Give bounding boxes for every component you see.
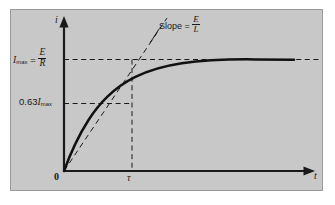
imax-label: Imax = ER bbox=[13, 50, 46, 70]
figure-root: i t 0 τ Imax = ER 0.63Imax Slope = EL bbox=[0, 0, 335, 205]
063-coefficient: 0.63 bbox=[19, 96, 38, 107]
y-axis-arrowhead bbox=[59, 16, 68, 28]
fraction-denominator-R: R bbox=[38, 59, 46, 69]
slope-label-leader bbox=[150, 29, 159, 43]
y-axis bbox=[59, 16, 68, 171]
slope-annotation: Slope = EL bbox=[159, 17, 200, 36]
emf-over-inductance-fraction: EL bbox=[192, 15, 200, 34]
current-rise-curve bbox=[64, 59, 294, 171]
y-axis-label: i bbox=[55, 15, 58, 25]
063-imax-label: 0.63Imax bbox=[19, 97, 52, 108]
fraction-denominator-L: L bbox=[192, 25, 200, 34]
slope-text: Slope = bbox=[159, 21, 192, 31]
origin-label: 0 bbox=[54, 172, 59, 182]
imax-equals-sign: = bbox=[28, 54, 39, 65]
imax-subscript: max bbox=[16, 59, 27, 65]
x-axis-label: t bbox=[314, 171, 317, 181]
tau-tick-label: τ bbox=[127, 173, 131, 183]
x-axis bbox=[64, 166, 315, 175]
plot-panel bbox=[10, 9, 323, 191]
emf-over-resistance-fraction: ER bbox=[38, 48, 46, 68]
plot-drawing bbox=[11, 10, 322, 190]
063-imax-subscript: max bbox=[41, 101, 52, 107]
